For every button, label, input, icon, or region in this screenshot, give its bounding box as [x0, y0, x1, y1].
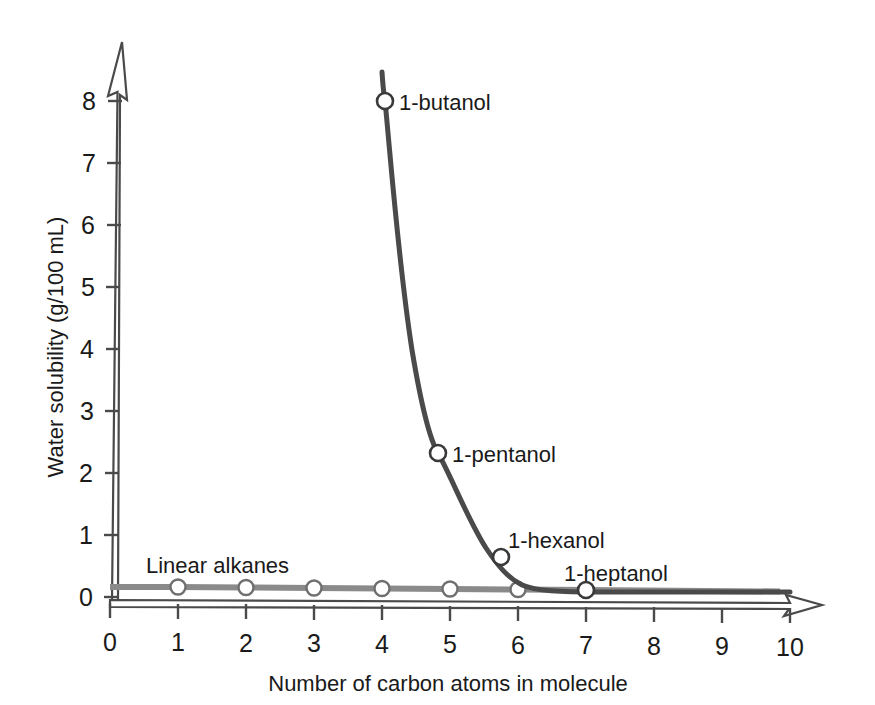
x-axis-tick-labels: 0 1 2 3 4 5 6 7 8 9 10 — [103, 628, 804, 661]
y-tick-label-6: 6 — [81, 211, 95, 239]
y-tick-label-7: 7 — [82, 149, 96, 177]
chart-canvas: 0 1 2 3 4 5 6 7 8 0 1 2 — [0, 0, 875, 705]
x-tick-label-2: 2 — [239, 629, 253, 657]
x-tick-label-3: 3 — [307, 629, 321, 657]
alkane-marker-c1 — [171, 580, 186, 595]
data-point-1-hexanol — [493, 549, 509, 565]
y-axis-tick-labels: 0 1 2 3 4 5 6 7 8 — [79, 87, 96, 611]
x-tick-label-0: 0 — [103, 628, 117, 656]
data-point-1-butanol — [377, 93, 393, 109]
y-tick-label-3: 3 — [80, 397, 94, 425]
alkane-marker-c3 — [307, 581, 322, 596]
x-tick-label-6: 6 — [511, 631, 525, 659]
series-linear-alkanes — [110, 580, 780, 598]
y-tick-label-5: 5 — [81, 273, 95, 301]
x-tick-label-8: 8 — [647, 632, 661, 660]
alcohol-curve — [382, 72, 790, 592]
x-axis-title: Number of carbon atoms in molecule — [268, 671, 628, 696]
x-tick-label-7: 7 — [579, 631, 593, 659]
annotation-linear-alkanes: Linear alkanes — [146, 553, 289, 578]
x-tick-label-1: 1 — [171, 628, 185, 656]
y-tick-label-2: 2 — [79, 459, 93, 487]
annotation-1-hexanol: 1-hexanol — [508, 528, 605, 553]
annotation-1-butanol: 1-butanol — [399, 90, 491, 115]
y-tick-label-8: 8 — [82, 87, 96, 115]
alkane-marker-c4 — [375, 581, 390, 596]
alkane-marker-c5 — [443, 582, 458, 597]
annotation-1-heptanol: 1-heptanol — [564, 561, 668, 586]
y-tick-label-0: 0 — [79, 583, 93, 611]
annotation-1-pentanol: 1-pentanol — [452, 442, 556, 467]
data-point-1-pentanol — [430, 445, 446, 461]
y-axis-title: Water solubility (g/100 mL) — [43, 217, 68, 478]
x-axis — [110, 595, 822, 616]
y-tick-label-4: 4 — [80, 335, 94, 363]
x-tick-label-10: 10 — [776, 633, 804, 661]
y-tick-label-1: 1 — [79, 521, 93, 549]
x-tick-label-9: 9 — [715, 632, 729, 660]
y-axis-arrow — [108, 42, 127, 600]
x-tick-label-4: 4 — [375, 630, 389, 658]
x-tick-label-5: 5 — [443, 630, 457, 658]
y-axis — [108, 42, 127, 600]
alkane-marker-c2 — [239, 580, 254, 595]
series-alcohols — [377, 72, 790, 598]
x-axis-arrow — [110, 595, 822, 616]
data-annotations: 1-butanol 1-pentanol 1-hexanol 1-heptano… — [146, 90, 668, 586]
solubility-chart: 0 1 2 3 4 5 6 7 8 0 1 2 — [0, 0, 875, 705]
